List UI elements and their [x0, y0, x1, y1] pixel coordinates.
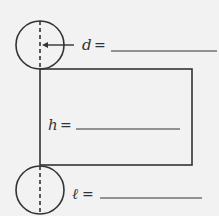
label-h: h [48, 116, 58, 134]
arrowhead-icon [42, 42, 48, 48]
label-h-equals: = [60, 117, 72, 133]
label-l: ℓ [72, 185, 78, 203]
label-d: d [82, 36, 92, 54]
label-l-equals: = [82, 186, 94, 202]
label-d-equals: = [94, 37, 106, 53]
cylinder-net-diagram: d = h = ℓ = [0, 0, 219, 216]
